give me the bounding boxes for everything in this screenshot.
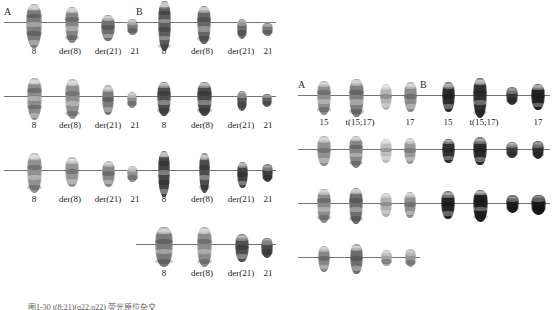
chromosome-band [262,24,273,28]
chromosome-band [380,103,392,108]
chromosome-band [65,26,79,31]
chromosome-band [349,161,363,165]
chromosome-band [26,40,42,45]
chromosome-band [237,92,247,98]
chromosome-band [158,170,170,175]
chromosome-band [380,140,392,144]
chromosome-label: der(8) [180,120,224,130]
chromosome-band [27,80,42,85]
chromosome-band [317,148,331,154]
chr-21 [261,238,273,258]
chromosome-band [380,202,392,206]
chromosome-band [506,98,518,103]
chromosome-band [158,161,170,166]
chromosome-band [199,155,210,161]
chromosome-band [157,83,171,88]
chromosome-band [197,36,211,41]
chromosome-band [349,207,363,212]
chromosome-band [380,156,392,160]
chr-t1517-b [380,139,392,163]
chromosome-band [506,151,518,155]
chromosome-band [350,266,363,272]
chromosome-band [531,206,546,212]
panel-letter-b: B [136,6,143,17]
chromosome-band [155,259,173,265]
chromosome-band [237,163,248,168]
chromosome-band [404,84,417,90]
chromosome-band [404,202,416,207]
chr-8 [26,4,42,48]
chromosome-label: 21 [246,120,290,130]
chromosome-band [473,215,488,219]
chr-der8 [199,153,210,193]
chromosome-band [404,139,416,144]
chromosome-band [65,111,80,117]
chr-der21 [237,19,247,39]
row-labels: 15t(15;17)17 [420,117,550,128]
chromosome-band [197,108,212,113]
chromosome-band [531,94,545,99]
chromosome-band [199,175,210,181]
chromosome-band [317,82,331,87]
chr-17 [531,195,546,215]
chromosome-band [506,143,518,147]
chromosome-band [404,94,417,100]
chr-t1517-b [381,250,392,266]
chr-t1517 [473,137,487,165]
chromosome-band [473,80,487,86]
chromosome-band [442,94,455,100]
chromosome-band [380,210,392,214]
chr-17 [404,138,416,164]
chromosome-band [155,249,173,255]
chr-t1517-b [380,193,392,217]
chr-der21 [102,161,115,187]
chromosome-band [442,104,455,110]
chromosome-band [442,156,455,160]
chromosome-band [27,175,42,181]
chromosome-band [473,157,487,162]
chromosome-band [65,81,80,87]
chromosome-band [349,145,363,149]
row-labels: 8der(8)der(21)21 [136,194,276,205]
chromosome-label: der(8) [180,46,224,56]
chromosome-band [197,83,212,88]
chromosome-band [65,8,79,13]
chromosome-band [532,152,544,157]
chromosome-band [127,28,138,32]
chr-der8 [197,82,212,116]
chromosome-band [380,148,392,152]
row-labels: 15t(15;17)17 [298,117,420,128]
chromosome-band [237,102,247,108]
chr-8 [158,1,171,51]
chromosome-band [317,107,331,112]
chromosome-label: t(15;17) [338,117,382,127]
chromosome-band [197,100,212,105]
chr-17 [404,192,416,218]
chromosome-band [65,159,79,165]
row-labels: 8der(8)der(21)21 [136,120,276,131]
chromosome-band [380,94,392,99]
chromosome-band [65,91,80,97]
chromosome-band [349,216,363,221]
chromosome-band [349,109,364,114]
chromosome-band [318,247,330,252]
chr-17 [532,141,544,159]
chromosome-band [317,198,331,203]
chromosome-band [101,34,115,39]
chromosome-band [27,155,42,161]
chr-t1517-b [506,195,519,213]
chromosome-band [65,101,80,107]
chromosome-band [261,249,273,255]
chromosome-band [317,190,331,195]
chromosome-band [349,198,363,203]
chromosome-band [197,239,212,245]
chromosome-band [317,158,331,164]
panel-letter-a: A [298,79,305,90]
chromosome-band [27,185,42,191]
chromosome-band [127,175,138,179]
chr-der8 [197,227,212,267]
chromosome-band [65,17,79,22]
chromosome-label: 21 [246,268,290,278]
figure-caption: 图1-30 t(8;21)(q22;q22) 荧光原位杂交 [28,301,156,310]
chromosome-band [350,256,363,262]
